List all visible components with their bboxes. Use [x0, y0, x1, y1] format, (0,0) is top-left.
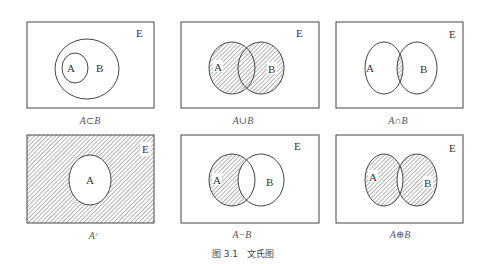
set-a-label: A: [214, 61, 222, 73]
set-b-label: B: [424, 177, 431, 189]
caption-difference: A−B: [232, 229, 252, 240]
panel-intersection: A B E A∩B: [336, 22, 463, 126]
panel-subset: E A B A⊂B: [27, 22, 154, 126]
set-b-label: B: [96, 62, 103, 74]
universe-label: E: [142, 143, 149, 155]
caption-subset: A⊂B: [79, 115, 101, 126]
set-a-label: A: [366, 62, 374, 74]
panel-symmetric-difference: A B E A⊕B: [330, 130, 470, 240]
panel-complement: E A Aᶜ: [27, 135, 154, 241]
universe-label: E: [449, 28, 456, 40]
set-a-label: A: [86, 174, 94, 186]
universe-label: E: [136, 27, 143, 39]
set-b-label: B: [266, 176, 273, 188]
universe-label: E: [294, 140, 301, 152]
panel-union: A B E A∪B: [181, 22, 319, 126]
caption-union: A∪B: [232, 115, 254, 126]
set-b-label: B: [268, 63, 275, 75]
set-a-circle: [62, 53, 88, 83]
venn-diagram-figure: E A B A⊂B A B E A∪B A B E A∩B E A Aᶜ: [0, 0, 482, 264]
set-a-label: A: [369, 171, 377, 183]
figure-title: 图 3.1 文氏图: [212, 248, 274, 259]
panel-difference: A B E A−B: [180, 130, 320, 240]
set-b-circle: [55, 39, 119, 99]
set-b-label: B: [420, 63, 427, 75]
caption-symmetric-difference: A⊕B: [389, 229, 411, 240]
caption-intersection: A∩B: [387, 115, 407, 126]
universe-label: E: [449, 142, 456, 154]
set-a-label: A: [213, 174, 221, 186]
universe-label: E: [296, 27, 303, 39]
universe-box: [27, 22, 154, 108]
set-a-label: A: [67, 62, 75, 74]
caption-complement: Aᶜ: [88, 230, 99, 241]
